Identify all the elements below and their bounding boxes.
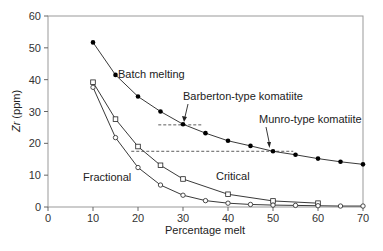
data-point bbox=[226, 138, 231, 143]
data-point bbox=[136, 94, 141, 99]
data-point bbox=[113, 117, 118, 122]
data-point bbox=[203, 198, 207, 202]
data-point bbox=[158, 163, 163, 168]
data-point bbox=[91, 80, 96, 85]
reference-lines bbox=[131, 125, 293, 151]
y-tick-label: 30 bbox=[29, 106, 41, 118]
x-tick-label: 70 bbox=[357, 212, 369, 224]
label-fractional: Fractional bbox=[83, 171, 131, 183]
data-point bbox=[91, 85, 95, 89]
data-point bbox=[226, 201, 230, 205]
data-point bbox=[158, 109, 163, 114]
data-point bbox=[181, 177, 186, 182]
data-point bbox=[203, 131, 208, 136]
label-batch-melting: Batch melting bbox=[118, 68, 185, 80]
label-barberton: Barberton-type komatiite bbox=[183, 90, 303, 102]
series-batch-melting bbox=[91, 40, 366, 167]
arrow-munro bbox=[266, 127, 270, 144]
y-tick-label: 10 bbox=[29, 169, 41, 181]
data-point bbox=[158, 183, 162, 187]
data-point bbox=[271, 149, 276, 154]
data-point bbox=[361, 204, 365, 208]
series-fractional bbox=[91, 85, 365, 208]
y-tick-label: 50 bbox=[29, 42, 41, 54]
caption-fragment bbox=[6, 244, 383, 251]
y-tick-label: 40 bbox=[29, 74, 41, 86]
data-point bbox=[181, 122, 186, 127]
x-tick-label: 0 bbox=[45, 212, 51, 224]
data-point bbox=[181, 193, 185, 197]
data-point bbox=[338, 204, 342, 208]
y-tick-label: 60 bbox=[29, 10, 41, 22]
y-tick-label: 20 bbox=[29, 137, 41, 149]
y-axis-title: Zr (ppm) bbox=[10, 90, 22, 133]
series-line bbox=[93, 42, 363, 164]
x-tick-label: 30 bbox=[177, 212, 189, 224]
data-point bbox=[316, 204, 320, 208]
data-point bbox=[226, 192, 231, 197]
y-tick-label: 0 bbox=[35, 201, 41, 213]
label-critical: Critical bbox=[216, 170, 250, 182]
y-axis-title-unit: (ppm) bbox=[10, 90, 22, 122]
data-point bbox=[113, 135, 117, 139]
data-point bbox=[293, 152, 298, 157]
x-tick-label: 40 bbox=[222, 212, 234, 224]
x-tick-label: 10 bbox=[87, 212, 99, 224]
x-axis: 010203040506070 bbox=[45, 207, 369, 224]
data-point bbox=[248, 144, 253, 149]
x-tick-label: 20 bbox=[132, 212, 144, 224]
data-point bbox=[293, 203, 297, 207]
label-munro: Munro-type komatiite bbox=[259, 113, 362, 125]
x-axis-title: Percentage melt bbox=[165, 224, 245, 236]
data-point bbox=[361, 162, 366, 167]
arrowhead-barberton bbox=[182, 116, 187, 122]
data-point bbox=[136, 165, 140, 169]
data-point bbox=[271, 203, 275, 207]
data-point bbox=[136, 144, 141, 149]
series-line bbox=[93, 87, 363, 206]
data-point bbox=[248, 202, 252, 206]
data-point bbox=[316, 156, 321, 161]
data-point bbox=[91, 40, 96, 45]
data-point bbox=[338, 159, 343, 164]
arrowhead-munro bbox=[267, 142, 271, 148]
x-tick-label: 50 bbox=[267, 212, 279, 224]
chart: 0102030405060 010203040506070 Zr (ppm) P… bbox=[0, 0, 383, 251]
y-axis: 0102030405060 bbox=[29, 10, 48, 213]
x-tick-label: 60 bbox=[312, 212, 324, 224]
